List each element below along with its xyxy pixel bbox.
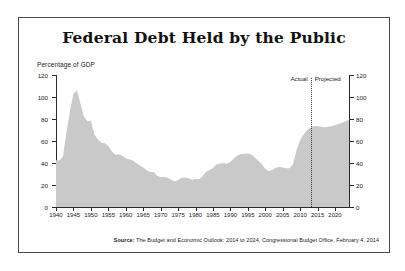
actual-projected-divider — [311, 78, 312, 207]
debt-area-path — [56, 90, 349, 207]
source-text: The Budget and Economic Outlook: 2014 to… — [136, 237, 379, 243]
annotation-projected: Projected — [315, 75, 341, 82]
chart-figure: Federal Debt Held by the Public Percenta… — [18, 17, 390, 253]
area-series — [19, 18, 391, 254]
source-note: Source: The Budget and Economic Outlook:… — [19, 237, 379, 243]
source-prefix: Source: — [114, 237, 135, 243]
annotation-actual: Actual — [277, 75, 308, 82]
